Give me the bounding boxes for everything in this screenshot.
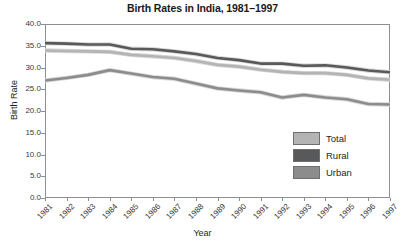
legend-label: Rural (326, 151, 349, 161)
x-axis-tick-mark (45, 198, 46, 201)
x-axis-tick-label: 1982 (51, 202, 76, 227)
x-axis-tick-label: 1987 (159, 202, 184, 227)
x-axis-tick-mark (88, 198, 89, 201)
x-axis-tick-label: 1992 (267, 202, 292, 227)
y-axis-tick-label: 40.0 (5, 20, 41, 28)
x-axis-tick-mark (261, 198, 262, 201)
x-axis-tick-label: 1994 (310, 202, 335, 227)
x-axis-tick-label: 1983 (73, 202, 98, 227)
legend-swatch-urban (293, 166, 320, 179)
y-axis-tick-label: 5.0 (5, 172, 41, 180)
x-axis-tick-mark (196, 198, 197, 201)
x-axis-tick-label: 1993 (288, 202, 313, 227)
x-axis-tick-mark (325, 198, 326, 201)
x-axis-tick-mark (239, 198, 240, 201)
legend-swatch-total (293, 132, 320, 145)
x-axis-tick-mark (131, 198, 132, 201)
x-axis-tick-label: 1995 (331, 202, 356, 227)
x-axis-tick-label: 1985 (116, 202, 141, 227)
chart-figure: Birth Rates in India, 1981–1997 0.05.010… (0, 0, 405, 247)
y-axis-title: Birth Rate (9, 55, 19, 145)
x-axis-tick-mark (282, 198, 283, 201)
y-axis-tick-label: 35.0 (5, 42, 41, 50)
x-axis-tick-label: 1996 (353, 202, 378, 227)
x-axis-tick-mark (304, 198, 305, 201)
chart-legend: TotalRuralUrban (293, 130, 377, 181)
x-axis-tick-mark (174, 198, 175, 201)
x-axis-tick-mark (153, 198, 154, 201)
y-axis-tick-label: 10.0 (5, 151, 41, 159)
legend-item-rural[interactable]: Rural (293, 147, 377, 164)
x-axis-tick-label: 1991 (245, 202, 270, 227)
legend-label: Urban (326, 168, 352, 178)
legend-item-urban[interactable]: Urban (293, 164, 377, 181)
y-axis-tick-labels: 0.05.010.015.020.025.030.035.040.0 (0, 0, 41, 247)
x-axis-tick-label: 1990 (224, 202, 249, 227)
x-axis-tick-mark (218, 198, 219, 201)
series-line-rural (45, 43, 390, 72)
x-axis-tick-mark (368, 198, 369, 201)
x-axis-title: Year (0, 228, 405, 238)
x-axis-tick-mark (347, 198, 348, 201)
chart-title: Birth Rates in India, 1981–1997 (0, 2, 405, 14)
x-axis-tick-label: 1997 (375, 202, 400, 227)
legend-label: Total (326, 134, 346, 144)
x-axis-tick-label: 1986 (137, 202, 162, 227)
x-axis-tick-mark (390, 198, 391, 201)
x-axis-tick-mark (110, 198, 111, 201)
legend-item-total[interactable]: Total (293, 130, 377, 147)
x-axis-tick-mark (67, 198, 68, 201)
x-axis-tick-label: 1984 (94, 202, 119, 227)
legend-swatch-rural (293, 149, 320, 162)
y-axis-tick-label: 0.0 (5, 194, 41, 202)
x-axis-tick-label: 1988 (181, 202, 206, 227)
x-axis-tick-label: 1989 (202, 202, 227, 227)
